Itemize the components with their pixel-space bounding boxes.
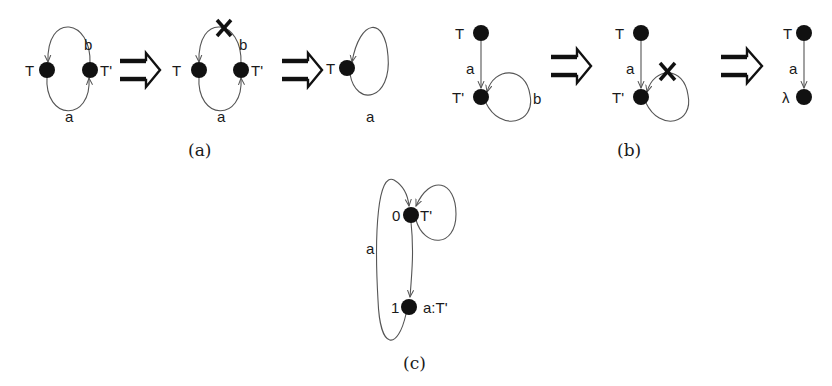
label-T: T	[25, 62, 34, 79]
transition-arrow-icon	[551, 49, 591, 83]
label-a: a	[366, 240, 375, 257]
label-a: a	[626, 60, 635, 77]
label-T-prime: T'	[251, 62, 263, 79]
node-T-prime	[633, 89, 649, 105]
panel-b-step-3: T λ a	[782, 25, 812, 106]
edge-0-to-1	[410, 222, 413, 297]
label-T: T	[172, 62, 181, 79]
removed-x-icon	[217, 20, 231, 36]
label-b: b	[239, 36, 247, 53]
node-T	[473, 25, 489, 41]
panel-a-step-1: T T' b a	[25, 27, 112, 125]
label-T-prime: T'	[612, 89, 624, 106]
edge-self-loop-removed	[646, 73, 689, 121]
label-a: a	[217, 108, 226, 125]
removed-x-icon	[660, 63, 675, 80]
node-T-prime	[82, 62, 98, 78]
label-T-prime: T'	[100, 62, 112, 79]
label-a: a	[65, 108, 74, 125]
panel-c: 0 T' 1 a:T' a	[366, 179, 456, 340]
node-T	[191, 62, 207, 78]
node-lambda	[796, 89, 812, 105]
panel-a-step-2: T T' b a	[172, 20, 263, 125]
label-lambda: λ	[782, 89, 790, 106]
caption-b: (b)	[617, 140, 641, 160]
label-T: T	[326, 60, 335, 77]
label-a: a	[789, 60, 798, 77]
panel-b-step-1: T T' a b	[452, 25, 541, 121]
label-a: a	[466, 60, 475, 77]
label-T: T	[615, 25, 624, 42]
transition-arrow-icon	[120, 53, 160, 87]
label-b: b	[84, 36, 92, 53]
panel-a-step-3: T a	[326, 27, 388, 125]
label-b: b	[533, 90, 541, 107]
edge-a	[47, 76, 89, 111]
edge-b-self-loop	[486, 73, 531, 121]
transition-arrow-icon	[282, 53, 322, 87]
edge-a	[199, 76, 241, 111]
node-T-prime	[233, 62, 249, 78]
node-T	[39, 62, 55, 78]
caption-a: (a)	[188, 140, 211, 160]
node-0	[403, 207, 419, 223]
node-T	[633, 25, 649, 41]
caption-c: (c)	[403, 353, 426, 373]
node-1	[401, 299, 417, 315]
edge-1-to-0-a	[377, 179, 409, 340]
label-1: 1	[391, 299, 399, 316]
label-a: a	[366, 108, 375, 125]
node-T	[339, 60, 355, 76]
node-T	[796, 25, 812, 41]
label-0: 0	[392, 207, 400, 224]
label-0-annotation: T'	[420, 207, 432, 224]
label-T: T	[783, 25, 792, 42]
label-1-annotation: a:T'	[423, 299, 448, 316]
transition-arrow-icon	[721, 49, 762, 83]
label-T: T	[455, 25, 464, 42]
figure-diagram: T T' b a T T' b a T a (a)	[0, 0, 832, 386]
edge-a-self-loop	[350, 27, 388, 95]
node-T-prime	[473, 89, 489, 105]
panel-b-step-2: T T' a	[612, 25, 689, 121]
label-T-prime: T'	[452, 89, 464, 106]
